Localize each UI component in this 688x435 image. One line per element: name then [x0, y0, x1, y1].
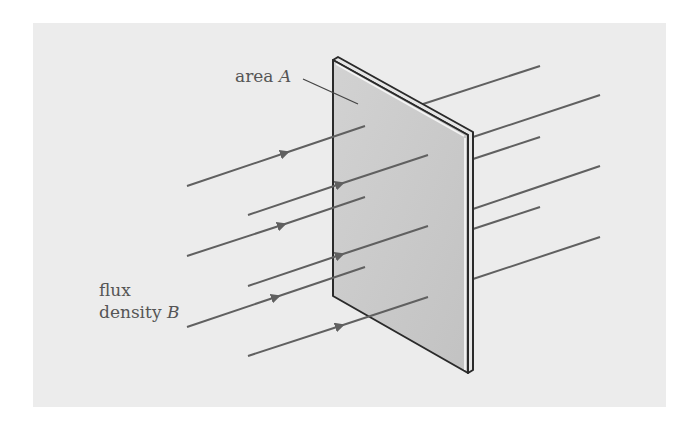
flux-diagram: area A flux density B	[0, 0, 688, 435]
field-line-3-exit	[470, 137, 540, 160]
area-label: area A	[235, 66, 291, 86]
field-line-5-exit	[470, 207, 540, 230]
plate-face	[333, 60, 468, 373]
field-line-4-exit	[470, 166, 600, 210]
field-line-6-exit	[470, 237, 600, 280]
field-line-1-exit	[420, 66, 540, 105]
flux-label-line1: flux	[99, 280, 131, 300]
field-line-2-exit	[470, 95, 600, 138]
plate	[333, 57, 473, 373]
flux-label-line2: density B	[99, 302, 179, 322]
